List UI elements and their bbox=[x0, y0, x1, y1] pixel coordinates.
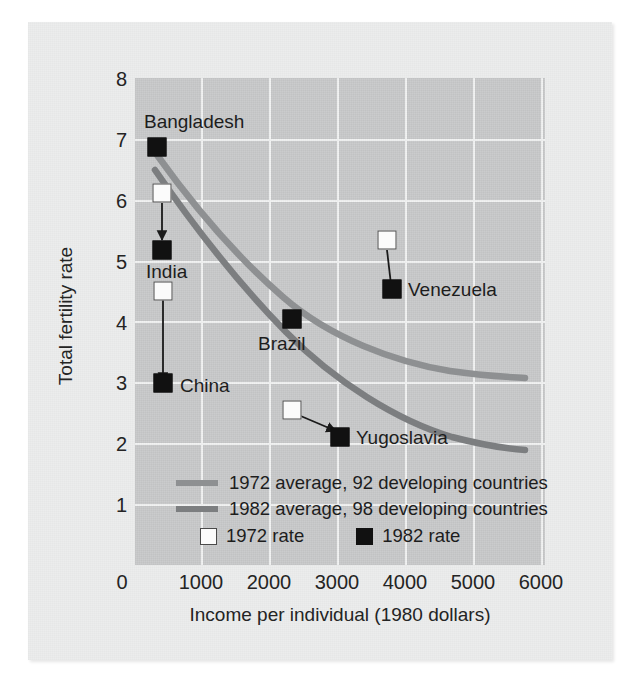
y-axis-title: Total fertility rate bbox=[55, 221, 77, 411]
marker-1972-china[interactable] bbox=[154, 282, 173, 301]
legend-line-swatch-1982 bbox=[176, 506, 218, 512]
legend-filled-square-swatch bbox=[356, 528, 373, 545]
marker-1982-bangladesh[interactable] bbox=[148, 138, 167, 157]
y-tick-7: 7 bbox=[99, 130, 127, 150]
fertility-income-chart: Bangladesh India China Brazil Venezuela … bbox=[0, 0, 644, 696]
y-tick-1: 1 bbox=[99, 495, 127, 515]
marker-1982-yugoslavia[interactable] bbox=[331, 428, 350, 447]
x-tick-1000: 1000 bbox=[179, 572, 224, 592]
point-label-india: India bbox=[146, 262, 187, 281]
x-tick-6000: 6000 bbox=[519, 572, 564, 592]
marker-1972-india[interactable] bbox=[153, 184, 172, 203]
chart-legend: 1972 average, 92 developing countries 19… bbox=[176, 470, 526, 550]
x-tick-5000: 5000 bbox=[451, 572, 496, 592]
point-label-bangladesh: Bangladesh bbox=[144, 112, 244, 131]
point-label-brazil: Brazil bbox=[258, 334, 306, 353]
point-label-venezuela: Venezuela bbox=[408, 280, 497, 299]
y-tick-8: 8 bbox=[99, 69, 127, 89]
x-axis-title: Income per individual (1980 dollars) bbox=[135, 604, 545, 626]
y-tick-3: 3 bbox=[99, 373, 127, 393]
x-tick-2000: 2000 bbox=[247, 572, 292, 592]
legend-item-1982-average[interactable]: 1982 average, 98 developing countries bbox=[176, 496, 526, 522]
y-tick-6: 6 bbox=[99, 191, 127, 211]
marker-1982-venezuela[interactable] bbox=[383, 280, 402, 299]
y-tick-2: 2 bbox=[99, 434, 127, 454]
legend-open-square-swatch bbox=[200, 528, 217, 545]
y-tick-5: 5 bbox=[99, 252, 127, 272]
legend-label-1982-rate: 1982 rate bbox=[382, 525, 460, 547]
marker-1972-yugoslavia[interactable] bbox=[283, 401, 302, 420]
legend-label-1972-rate: 1972 rate bbox=[226, 525, 304, 547]
marker-1982-india[interactable] bbox=[153, 241, 172, 260]
gridline-horizontal-7 bbox=[135, 139, 545, 141]
gridline-horizontal-6 bbox=[135, 200, 545, 202]
legend-label-1982-average: 1982 average, 98 developing countries bbox=[229, 498, 548, 520]
point-label-yugoslavia: Yugoslavia bbox=[356, 428, 448, 447]
gridline-horizontal-4 bbox=[135, 321, 545, 323]
point-label-china: China bbox=[180, 376, 230, 395]
legend-marker-row: 1972 rate 1982 rate bbox=[176, 522, 526, 550]
marker-1982-brazil[interactable] bbox=[283, 310, 302, 329]
x-tick-4000: 4000 bbox=[383, 572, 428, 592]
marker-1982-china[interactable] bbox=[154, 374, 173, 393]
legend-item-1972-average[interactable]: 1972 average, 92 developing countries bbox=[176, 470, 526, 496]
legend-label-1972-average: 1972 average, 92 developing countries bbox=[229, 472, 548, 494]
gridline-horizontal-5 bbox=[135, 261, 545, 263]
x-tick-0: 0 bbox=[116, 572, 127, 592]
marker-1972-venezuela[interactable] bbox=[378, 231, 397, 250]
y-tick-4: 4 bbox=[99, 313, 127, 333]
x-tick-3000: 3000 bbox=[315, 572, 360, 592]
legend-line-swatch-1972 bbox=[176, 480, 218, 486]
